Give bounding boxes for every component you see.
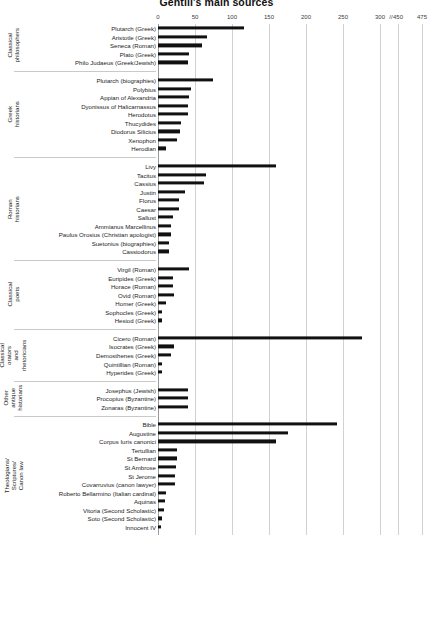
bar-label: Philo Judaeus (Greek/Jewish)	[75, 59, 156, 66]
group-separator	[14, 381, 156, 382]
bar-label: Quintillian (Roman)	[104, 360, 156, 367]
bar	[158, 362, 162, 365]
bar-label: Soto (Second Scholastic)	[88, 515, 156, 522]
chart-container: Gentili's main sources 05010015020025030…	[0, 0, 433, 621]
x-tick-200: 200	[301, 14, 311, 20]
group-label-text: Theologians/ Scriptures/ Canon law	[2, 458, 24, 493]
bar	[158, 190, 185, 193]
bar-label: Sophocles (Greek)	[105, 308, 156, 315]
bar-label: Plutarch (biographies)	[96, 77, 156, 84]
bar	[158, 27, 244, 30]
bar-label: Tacitus	[137, 171, 156, 178]
bar-row: Hesiod (Greek)	[0, 316, 433, 325]
bar	[158, 448, 177, 451]
bar-label: Innocent IV	[125, 523, 156, 530]
bar-row: Sallust	[0, 213, 433, 222]
bar-row: Horace (Roman)	[0, 282, 433, 291]
bar-label: Caesar	[136, 205, 156, 212]
bar-row: Justin	[0, 187, 433, 196]
bar	[158, 250, 169, 253]
bar-row: Ovid (Roman)	[0, 290, 433, 299]
bar-label: Zonaras (Byzantine)	[101, 403, 156, 410]
bar	[158, 345, 174, 348]
bar-label: Appian of Alexandria	[100, 94, 156, 101]
bar	[158, 61, 188, 64]
bar-label: Euripides (Greek)	[108, 274, 156, 281]
group-label: Theologians/ Scriptures/ Canon law	[2, 420, 24, 531]
bar	[158, 199, 179, 202]
bar-row: Covarruvius (canon lawyer)	[0, 480, 433, 489]
bar-row: Cassiodorus	[0, 247, 433, 256]
group-separator	[14, 157, 156, 158]
bar-label: Josephus (Jewish)	[106, 386, 156, 393]
bar	[158, 319, 162, 322]
bar-label: Hyperides (Greek)	[106, 369, 156, 376]
bar-row: St Ambrose	[0, 463, 433, 472]
group-separator	[14, 416, 156, 417]
x-tick-100: 100	[227, 14, 237, 20]
bar-row: Josephus (Jewish)	[0, 385, 433, 394]
group-label-text: Classical philosophers	[6, 28, 20, 63]
bar-label: Diodorus Silicius	[111, 128, 156, 135]
bar-row: Hyperides (Greek)	[0, 368, 433, 377]
bar-label: Hesiod (Greek)	[115, 317, 156, 324]
bar-row: Innocent IV	[0, 523, 433, 532]
bar-row: Demosthenes (Greek)	[0, 351, 433, 360]
bar-label: Thucydides	[125, 119, 156, 126]
bar-row: Virgil (Roman)	[0, 265, 433, 274]
bar-label: St Jerome	[128, 472, 156, 479]
bar	[158, 216, 173, 219]
bar-row: Philo Judaeus (Greek/Jewish)	[0, 58, 433, 67]
bar	[158, 423, 337, 426]
bar-row: Aristotle (Greek)	[0, 33, 433, 42]
bar	[158, 113, 188, 116]
bar-row: Aquinas	[0, 497, 433, 506]
bar	[158, 508, 164, 511]
bar-row: Tacitus	[0, 170, 433, 179]
bar-row: Florus	[0, 196, 433, 205]
bar-row: Polybius	[0, 84, 433, 93]
bar-row: Cicero (Roman)	[0, 334, 433, 343]
group-separator	[14, 260, 156, 261]
bar	[158, 276, 173, 279]
bar-row: Tertullian	[0, 446, 433, 455]
bar-row: Dyonissus of Halicarnassus	[0, 101, 433, 110]
bar-row: Seneca (Roman)	[0, 41, 433, 50]
bar	[158, 431, 288, 434]
bar-row: St Jerome	[0, 471, 433, 480]
x-tick-150: 150	[264, 14, 274, 20]
x-tick-50: 50	[192, 14, 199, 20]
bar-label: Plutarch (Greek)	[111, 25, 156, 32]
bar-label: Cassius	[134, 180, 156, 187]
bar-label: Covarruvius (canon lawyer)	[82, 481, 156, 488]
bar	[158, 440, 276, 443]
bar-label: Xenophon	[128, 136, 156, 143]
bar	[158, 78, 213, 81]
bar-label: Demosthenes (Greek)	[96, 351, 156, 358]
bar-label: Plato (Greek)	[120, 50, 156, 57]
x-tick-475: 475	[417, 14, 427, 20]
bar-row: Quintillian (Roman)	[0, 359, 433, 368]
bar-row: Appian of Alexandria	[0, 93, 433, 102]
bar-label: Herodian	[131, 145, 156, 152]
bar-label: Livy	[145, 162, 156, 169]
x-tick-300: 300	[375, 14, 385, 20]
bar-label: St Ambrose	[125, 464, 157, 471]
bar	[158, 491, 166, 494]
bar	[158, 285, 173, 288]
group-label: Classical orators and rhetoricians	[2, 334, 24, 377]
bar-row: Thucydides	[0, 119, 433, 128]
bar-row: Zonaras (Byzantine)	[0, 402, 433, 411]
bar-label: Tertullian	[132, 446, 156, 453]
group-separator	[14, 71, 156, 72]
bar-row: Soto (Second Scholastic)	[0, 514, 433, 523]
bar	[158, 164, 276, 167]
bar	[158, 44, 202, 47]
bar-label: Cicero (Roman)	[113, 334, 156, 341]
bar	[158, 353, 171, 356]
bar	[158, 500, 165, 503]
bar-row: Roberto Bellarmino (Italian cardinal)	[0, 488, 433, 497]
bar-row: Homer (Greek)	[0, 299, 433, 308]
bar	[158, 173, 206, 176]
bar-label: Augustine	[129, 429, 156, 436]
